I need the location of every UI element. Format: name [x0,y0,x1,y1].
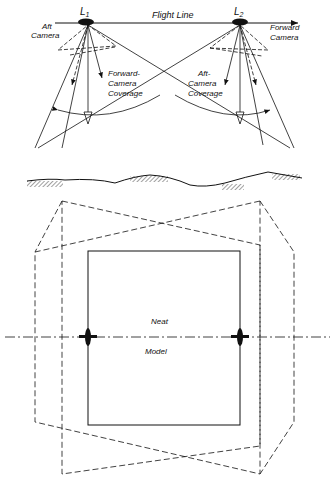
forward-camera-label-2: Camera [270,33,299,42]
aircraft-l1-icon [78,19,94,26]
aft-coverage-label-2: Camera [188,79,217,88]
aft-camera-label-1: Aft [41,22,53,31]
plumb-bob-l2-icon [236,100,244,124]
aft-coverage-label-3: Coverage [188,89,223,98]
side-view: Flight Line L1 L2 Aft Camera Forward Cam… [27,6,302,190]
neat-label: Neat [151,317,169,326]
aircraft-l2-icon [232,19,248,26]
aft-camera-label-2: Camera [31,31,60,40]
flight-line-label: Flight Line [152,10,194,20]
model-label: Model [145,347,167,356]
convergent-photography-diagram: Flight Line L1 L2 Aft Camera Forward Cam… [0,0,334,482]
station-l2-label: L2 [234,6,244,18]
neat-model-rectangle [88,251,240,425]
aircraft-plan-l1-icon [79,328,97,346]
forward-coverage-label-1: Forward- [108,69,140,78]
forward-coverage-label-2: Camera [108,79,137,88]
station-l1-label: L1 [80,6,90,18]
aft-coverage-label-1: Aft- [197,69,211,78]
forward-coverage-label-3: Coverage [108,89,143,98]
plumb-bob-l1-icon [84,100,92,124]
aft-coverage-outline [35,201,260,474]
plan-view: Neat Model [5,201,330,474]
forward-camera-label-1: Forward [270,23,300,32]
aircraft-plan-l2-icon [231,328,249,346]
